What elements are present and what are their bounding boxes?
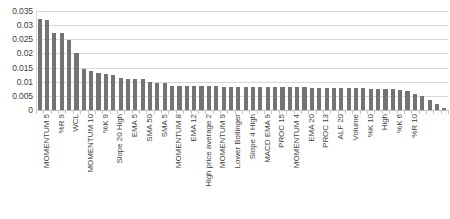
bar	[133, 79, 137, 110]
y-tick-label: 0.01	[17, 77, 33, 86]
x-axis-labels: MOMENTUM 5%R 9WCLMOMENTUM 10%K 9Slope 20…	[36, 114, 448, 219]
x-axis-label: Volume	[352, 114, 360, 140]
bar	[273, 87, 277, 110]
bar	[89, 71, 93, 110]
bar	[52, 33, 56, 110]
y-tick-label: 0.005	[12, 92, 33, 101]
bar-chart: 00.0050.010.0150.020.0250.030.035 MOMENT…	[0, 0, 450, 219]
x-axis-label: MOMENTUM 8	[175, 114, 183, 168]
bar	[302, 87, 306, 110]
bar-series	[36, 11, 448, 110]
y-tick-label: 0.03	[17, 21, 33, 30]
bar	[155, 83, 159, 110]
bar	[96, 73, 100, 110]
bar	[428, 100, 432, 110]
x-axis-label: MOMENTUM 9	[219, 114, 227, 168]
bar	[177, 86, 181, 110]
x-axis-label: PROC 13	[322, 114, 330, 148]
bar	[280, 87, 284, 110]
y-axis: 00.0050.010.0150.020.0250.030.035	[0, 0, 36, 219]
bar	[244, 87, 248, 110]
bar	[361, 88, 365, 110]
bar	[74, 53, 78, 110]
bar	[339, 88, 343, 110]
bar	[199, 86, 203, 110]
bar	[104, 74, 108, 110]
bar	[310, 88, 314, 110]
bar	[413, 94, 417, 110]
x-axis-label: %K 10	[367, 114, 375, 137]
x-axis-label: EMA 12	[190, 114, 198, 142]
bar	[369, 89, 373, 110]
bar	[67, 40, 71, 110]
bar	[170, 86, 174, 110]
bar	[317, 88, 321, 110]
bar	[214, 86, 218, 110]
bar	[251, 87, 255, 110]
x-axis-label: Lower Bollinger	[234, 114, 242, 168]
plot-area	[36, 11, 448, 110]
x-axis-label: MOMENTUM 10	[87, 114, 95, 173]
bar	[236, 87, 240, 110]
bar	[376, 89, 380, 110]
x-tick	[448, 110, 449, 114]
bar	[383, 89, 387, 110]
x-axis-label: High price average 2	[205, 114, 213, 187]
bar	[398, 90, 402, 110]
x-axis-label: %R 10	[411, 114, 419, 138]
x-axis-label: SMA 50	[146, 114, 154, 142]
bar	[38, 19, 42, 110]
x-axis-label: Slope 20 High	[116, 114, 124, 164]
bar	[295, 87, 299, 110]
bar	[229, 87, 233, 110]
y-tick-label: 0	[28, 106, 33, 115]
bar	[60, 33, 64, 110]
x-axis-label: SMA 5	[161, 114, 169, 137]
x-axis-label: EMA 20	[308, 114, 316, 142]
bar	[163, 83, 167, 110]
bar	[45, 20, 49, 110]
bar	[192, 86, 196, 110]
bar	[126, 79, 130, 110]
bar	[185, 86, 189, 110]
bar	[405, 91, 409, 110]
y-tick-label: 0.015	[12, 63, 33, 72]
x-axis-label: Slope 4 High	[249, 114, 257, 159]
bar	[266, 87, 270, 110]
bar	[119, 78, 123, 110]
x-axis-label: %K 6	[396, 114, 404, 133]
bar	[222, 87, 226, 110]
bar	[325, 88, 329, 110]
x-axis-label: %K 9	[102, 114, 110, 133]
bar	[82, 69, 86, 110]
x-axis-label: MOMENTUM 5	[43, 114, 51, 168]
bar	[207, 86, 211, 110]
x-axis-label: High	[381, 114, 389, 130]
y-tick-label: 0.035	[12, 7, 33, 16]
bar	[347, 88, 351, 110]
y-tick-label: 0.025	[12, 35, 33, 44]
x-axis-label: MACD EMA 9	[264, 114, 272, 163]
bar	[148, 82, 152, 110]
y-tick-label: 0.02	[17, 49, 33, 58]
x-axis-label: %R 9	[58, 114, 66, 133]
bar	[354, 88, 358, 110]
x-axis-label: EMA 5	[131, 114, 139, 137]
bar	[332, 88, 336, 110]
x-axis-label: WCL	[72, 114, 80, 132]
x-axis-label: ALF 20	[337, 114, 345, 140]
bar	[111, 75, 115, 110]
x-axis-label: MOMENTUM 4	[293, 114, 301, 168]
x-axis-label: PROC 15	[278, 114, 286, 148]
bar	[391, 89, 395, 110]
bar	[141, 79, 145, 110]
bar	[288, 87, 292, 110]
bar	[258, 87, 262, 110]
bar	[420, 96, 424, 110]
